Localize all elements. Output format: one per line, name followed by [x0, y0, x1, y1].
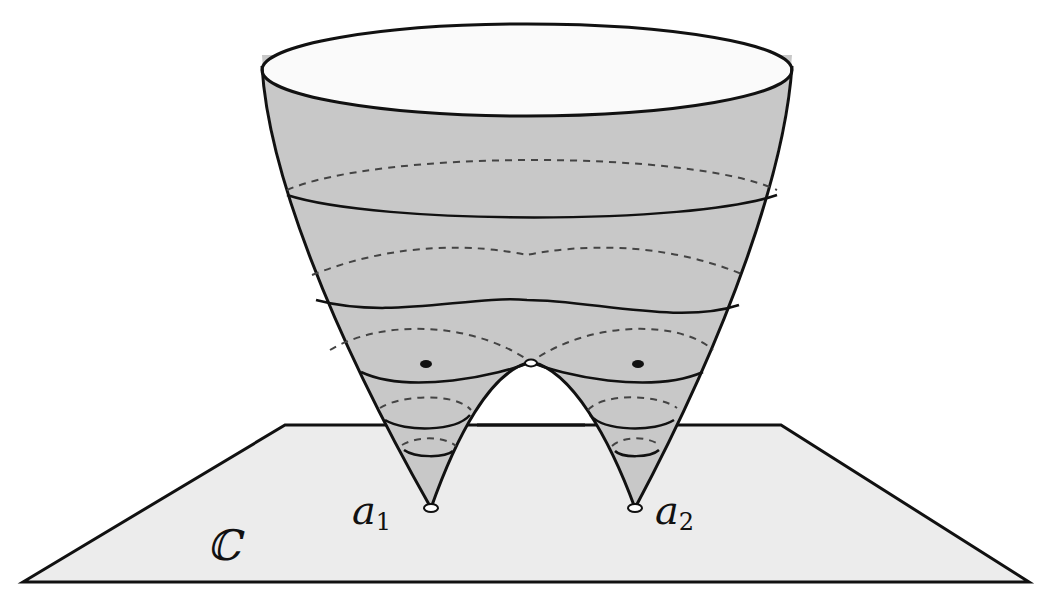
label-a2-base: a	[655, 487, 679, 533]
saddle-point-marker	[525, 360, 537, 367]
branch-point-a2-marker	[628, 504, 642, 512]
critical-point-right	[632, 360, 644, 368]
label-a2-subscript: 2	[679, 508, 694, 536]
complex-plane	[23, 425, 1029, 582]
label-a1-subscript: 1	[376, 508, 391, 536]
label-a1: a1	[352, 490, 391, 534]
branch-point-a1-marker	[424, 504, 438, 512]
diagram-figure	[0, 0, 1056, 605]
label-complex-plane: ℂ	[207, 525, 240, 567]
critical-point-left	[420, 360, 432, 368]
label-a1-base: a	[352, 487, 376, 533]
label-a2: a2	[655, 490, 694, 534]
surface-top-rim	[262, 24, 792, 116]
